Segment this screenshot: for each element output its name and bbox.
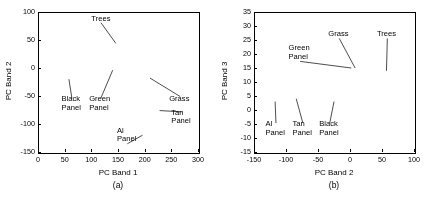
x-tick: [65, 149, 66, 152]
annotation-line: Panel: [171, 117, 190, 126]
annotation-al-panel: AlPanel: [117, 127, 136, 144]
panel-caption-a: (a): [38, 181, 198, 190]
y-tick-label: 35: [227, 8, 251, 15]
y-tick-label: 0: [227, 106, 251, 113]
x-tick-label: -100: [271, 156, 301, 163]
y-tick-label: -5: [227, 120, 251, 127]
y-tick: [38, 96, 41, 97]
x-tick: [318, 149, 319, 152]
x-tick-label: 100: [76, 156, 106, 163]
annotation-line: Panel: [319, 129, 338, 138]
annotation-green-panel: GreenPanel: [89, 95, 110, 112]
x-tick-label: 50: [50, 156, 80, 163]
y-tick-label: 0: [11, 64, 35, 71]
y-tick-label: 50: [11, 36, 35, 43]
y-tick: [38, 12, 41, 13]
x-tick-label: 50: [367, 156, 397, 163]
annotation-black-panel: BlackPanel: [319, 120, 338, 137]
x-tick-label: 0: [23, 156, 53, 163]
y-tick: [254, 110, 257, 111]
x-tick: [198, 149, 199, 152]
y-tick-label: 30: [227, 22, 251, 29]
annotation-tan-panel: TanPanel: [171, 109, 190, 126]
x-axis-title-a: PC Band 1: [38, 168, 198, 177]
annotation-tan-panel: TanPanel: [292, 120, 311, 137]
y-tick: [254, 124, 257, 125]
annotation-al-panel: AlPanel: [266, 120, 285, 137]
annotation-black-panel: BlackPanel: [61, 95, 80, 112]
y-tick: [254, 12, 257, 13]
y-tick: [254, 96, 257, 97]
x-tick: [382, 149, 383, 152]
y-tick: [38, 152, 41, 153]
y-tick-label: -10: [227, 134, 251, 141]
annotation-line: Grass: [328, 30, 348, 38]
y-axis-title-a: PC Band 2: [4, 54, 13, 108]
y-tick: [254, 82, 257, 83]
y-tick: [254, 40, 257, 41]
annotation-line: Panel: [61, 104, 80, 113]
x-tick-label: 100: [399, 156, 429, 163]
y-tick: [38, 40, 41, 41]
annotation-line: Panel: [292, 129, 311, 138]
y-tick-label: -100: [11, 120, 35, 127]
annotation-line: Trees: [377, 30, 396, 38]
figure-scatter-pca-panels: 050100150200250300-150-100-50050100 Tree…: [0, 0, 429, 201]
x-tick-label: -150: [239, 156, 269, 163]
y-tick: [254, 54, 257, 55]
x-tick: [350, 149, 351, 152]
y-tick: [38, 124, 41, 125]
y-tick-label: 10: [227, 78, 251, 85]
annotation-line: Trees: [91, 15, 110, 23]
y-tick-label: 15: [227, 64, 251, 71]
x-tick-label: 150: [103, 156, 133, 163]
annotation-green-panel: GreenPanel: [289, 44, 310, 61]
x-tick-label: 0: [335, 156, 365, 163]
x-axis-title-b: PC Band 2: [254, 168, 414, 177]
annotation-line: Grass: [169, 95, 189, 103]
annotation-trees: Trees: [91, 15, 110, 23]
x-tick-label: 250: [156, 156, 186, 163]
annotation-line: Panel: [289, 53, 310, 62]
panel-b: -150-100-50050100-15-10-505101520253035 …: [214, 0, 429, 201]
x-tick: [171, 149, 172, 152]
y-tick: [254, 68, 257, 69]
y-tick: [254, 26, 257, 27]
panel-a: 050100150200250300-150-100-50050100 Tree…: [0, 0, 215, 201]
x-tick-label: -50: [303, 156, 333, 163]
x-tick: [118, 149, 119, 152]
y-tick: [254, 138, 257, 139]
y-tick-label: -150: [11, 148, 35, 155]
y-tick-label: 20: [227, 50, 251, 57]
y-tick-label: 100: [11, 8, 35, 15]
y-tick-label: 5: [227, 92, 251, 99]
panel-caption-b: (b): [254, 181, 414, 190]
y-axis-title-b: PC Band 3: [220, 54, 229, 108]
x-tick: [414, 149, 415, 152]
y-tick-label: 25: [227, 36, 251, 43]
x-tick-label: 200: [130, 156, 160, 163]
annotation-grass: Grass: [328, 30, 348, 38]
y-tick-label: -15: [227, 148, 251, 155]
y-tick-label: -50: [11, 92, 35, 99]
annotation-grass: Grass: [169, 95, 189, 103]
x-tick: [286, 149, 287, 152]
y-tick: [254, 152, 257, 153]
x-tick-label: 300: [183, 156, 213, 163]
annotation-line: Panel: [266, 129, 285, 138]
x-tick: [91, 149, 92, 152]
y-tick: [38, 68, 41, 69]
annotation-line: Panel: [117, 135, 136, 144]
x-tick: [145, 149, 146, 152]
annotation-trees: Trees: [377, 30, 396, 38]
annotation-line: Panel: [89, 104, 110, 113]
